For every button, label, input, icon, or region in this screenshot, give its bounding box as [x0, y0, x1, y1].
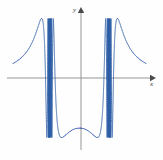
- y-axis-label: y: [73, 7, 76, 14]
- plot-canvas: [0, 0, 163, 160]
- y-axis-arrow-icon: [78, 7, 84, 13]
- function-plot-figure: x y: [0, 0, 163, 160]
- x-axis-label: x: [150, 81, 153, 88]
